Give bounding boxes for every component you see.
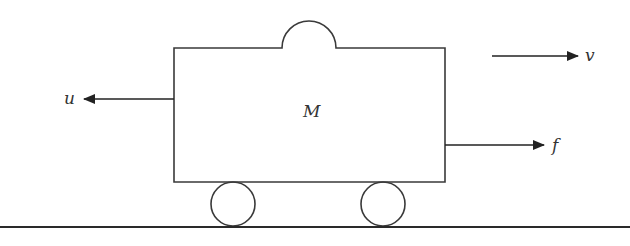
u-label: u xyxy=(64,88,75,108)
cart-diagram: M u v f xyxy=(0,0,630,246)
mass-label: M xyxy=(302,101,321,121)
wheel-left xyxy=(211,182,255,226)
v-label: v xyxy=(585,45,595,65)
wheel-right xyxy=(361,182,405,226)
f-label: f xyxy=(550,135,561,155)
diagram-svg: M u v f xyxy=(0,0,630,246)
